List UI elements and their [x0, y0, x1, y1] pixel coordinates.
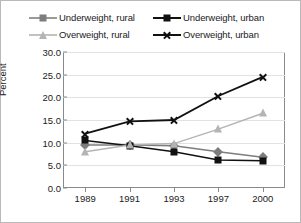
- square-marker-icon: [171, 148, 178, 155]
- diamond-marker-icon: [29, 12, 57, 23]
- x-marker-icon: [170, 116, 179, 125]
- y-axis-tick-mark: [63, 120, 67, 121]
- x-marker-icon: [125, 117, 134, 126]
- x-axis-tick-label: 2000: [252, 193, 273, 204]
- y-axis-ticks: 0.05.010.015.020.025.030.0: [21, 45, 61, 195]
- square-marker-icon: [259, 157, 266, 164]
- chart-legend: Underweight, rural Underweight, urban Ov…: [29, 9, 295, 43]
- y-axis-tick-label: 15.0: [21, 115, 61, 126]
- y-axis-tick-mark: [63, 142, 67, 143]
- triangle-marker-icon: [170, 139, 178, 147]
- y-axis-tick-mark: [63, 97, 67, 98]
- triangle-marker-icon: [29, 29, 57, 40]
- legend-item-underweight-rural[interactable]: Underweight, rural: [29, 9, 153, 26]
- triangle-marker-icon: [214, 125, 222, 133]
- legend-item-overweight-rural[interactable]: Overweight, rural: [29, 26, 153, 43]
- x-axis-tick-mark: [218, 188, 219, 192]
- y-axis-tick-mark: [63, 188, 67, 189]
- legend-label: Underweight, rural: [59, 12, 135, 23]
- plot-area: [63, 52, 285, 188]
- y-axis-tick-label: 20.0: [21, 92, 61, 103]
- y-axis-tick-label: 5.0: [21, 160, 61, 171]
- chart-figure: Underweight, rural Underweight, urban Ov…: [0, 0, 301, 223]
- x-axis-tick-mark: [85, 188, 86, 192]
- triangle-marker-icon: [126, 141, 134, 149]
- x-axis-tick-label: 1997: [208, 193, 229, 204]
- triangle-marker-icon: [81, 147, 89, 155]
- triangle-marker-icon: [259, 109, 267, 117]
- x-axis-tick-label: 1991: [119, 193, 140, 204]
- x-axis-tick-mark: [174, 188, 175, 192]
- y-axis-tick-label: 0.0: [21, 183, 61, 194]
- legend-item-overweight-urban[interactable]: Overweight, urban: [153, 26, 295, 43]
- x-marker-icon: [81, 129, 90, 138]
- y-axis-tick-label: 10.0: [21, 137, 61, 148]
- x-marker-icon: [214, 91, 223, 100]
- y-axis-tick-mark: [63, 52, 67, 53]
- legend-label: Overweight, urban: [183, 29, 259, 40]
- y-axis-tick-mark: [63, 165, 67, 166]
- x-marker-icon: [258, 72, 267, 81]
- legend-label: Underweight, urban: [183, 12, 264, 23]
- y-axis-tick-label: 25.0: [21, 69, 61, 80]
- legend-label: Overweight, rural: [59, 29, 130, 40]
- x-axis-tick-mark: [263, 188, 264, 192]
- y-axis-tick-mark: [63, 74, 67, 75]
- square-marker-icon: [153, 12, 181, 23]
- x-axis-tick-label: 1993: [163, 193, 184, 204]
- square-marker-icon: [215, 156, 222, 163]
- y-axis-label: Percent: [0, 63, 8, 96]
- legend-item-underweight-urban[interactable]: Underweight, urban: [153, 9, 295, 26]
- series-line: [85, 77, 263, 134]
- x-axis-tick-label: 1989: [75, 193, 96, 204]
- y-axis-tick-label: 30.0: [21, 47, 61, 58]
- x-marker-icon: [153, 29, 181, 40]
- x-axis-tick-mark: [130, 188, 131, 192]
